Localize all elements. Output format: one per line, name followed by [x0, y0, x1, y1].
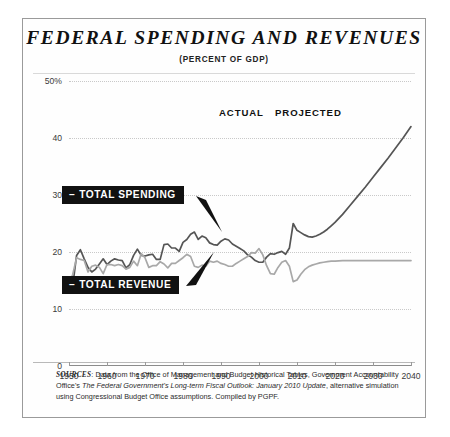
callout-total-spending: –TOTAL SPENDING — [62, 186, 184, 204]
callout-dash-spending: – — [69, 189, 75, 200]
callout-label-revenue: TOTAL REVENUE — [79, 279, 171, 290]
callout-total-revenue: –TOTAL REVENUE — [62, 276, 179, 294]
callout-label-spending: TOTAL SPENDING — [79, 189, 176, 200]
callout-tails — [0, 0, 450, 437]
callout-dash-revenue: – — [69, 279, 75, 290]
